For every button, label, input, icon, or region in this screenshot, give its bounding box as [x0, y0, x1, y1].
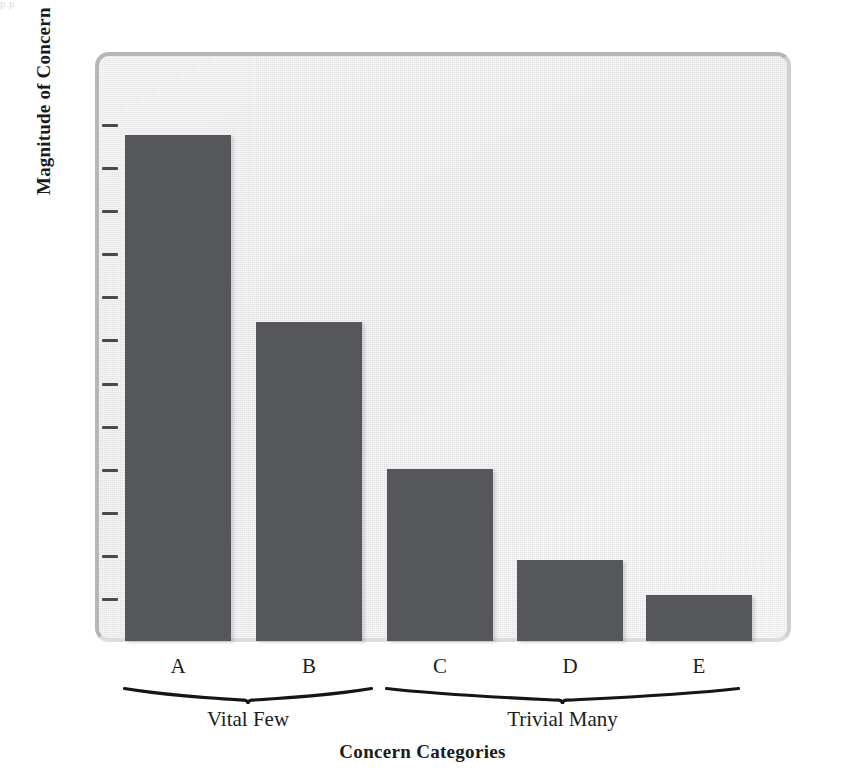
y-axis-tick [102, 253, 118, 256]
category-label-c: C [410, 654, 470, 679]
plot-panel [95, 52, 791, 642]
y-axis-tick [102, 167, 118, 170]
pareto-chart-figure: Magnitude of Concern ABCDE Vital FewTriv… [0, 0, 845, 775]
group-brace-trivial-many [385, 686, 740, 704]
y-axis-tick [102, 426, 118, 429]
bar-c [387, 469, 493, 641]
y-axis-tick [102, 469, 118, 472]
y-axis-tick [102, 210, 118, 213]
y-axis-title: Magnitude of Concern [33, 0, 55, 195]
category-label-e: E [669, 654, 729, 679]
y-axis-tick [102, 339, 118, 342]
group-label-trivial-many: Trivial Many [453, 707, 673, 732]
y-axis-tick [102, 124, 118, 127]
y-axis-tick [102, 383, 118, 386]
y-axis-tick [102, 555, 118, 558]
bar-e [646, 595, 752, 641]
category-label-a: A [148, 654, 208, 679]
group-label-vital-few: Vital Few [138, 707, 358, 732]
group-brace-vital-few [123, 686, 373, 704]
bar-d [517, 560, 623, 641]
y-axis-tick [102, 512, 118, 515]
category-label-b: B [279, 654, 339, 679]
bar-a [125, 135, 231, 641]
y-axis-tick [102, 598, 118, 601]
x-axis-title: Concern Categories [0, 741, 845, 763]
bar-b [256, 322, 362, 641]
y-axis-tick [102, 296, 118, 299]
category-label-d: D [540, 654, 600, 679]
